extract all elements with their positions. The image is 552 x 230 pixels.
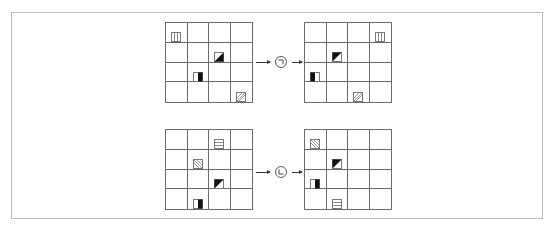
grid-cell-r1-c0 xyxy=(305,43,327,63)
grid-cell-r1-c1 xyxy=(327,43,349,63)
grid-cell-r1-c1 xyxy=(188,43,210,63)
grid-cell-r1-c2 xyxy=(209,150,231,170)
grid-cell-r0-c2 xyxy=(348,23,370,43)
output-grid-1 xyxy=(304,22,392,103)
grid-cell-r1-c2 xyxy=(348,150,370,170)
grid-cell-r3-c0 xyxy=(166,189,188,209)
grid-cell-r3-c3 xyxy=(370,82,392,102)
grid-cell-r1-c3 xyxy=(231,150,253,170)
triangle-top-left-dark-tile-icon xyxy=(332,47,342,57)
grid-cell-r3-c2 xyxy=(348,189,370,209)
grid-cell-r3-c0 xyxy=(305,82,327,102)
grid-cell-r0-c1 xyxy=(327,23,349,43)
output-grid-2 xyxy=(304,129,392,210)
grid-cell-r0-c0 xyxy=(305,23,327,43)
grid-cell-r3-c0 xyxy=(166,82,188,102)
grid-cell-r2-c0 xyxy=(166,170,188,190)
grid-cell-r0-c0 xyxy=(166,23,188,43)
grid-cell-r0-c3 xyxy=(231,130,253,150)
grid-cell-r1-c0 xyxy=(166,43,188,63)
grid-cell-r2-c3 xyxy=(231,170,253,190)
grid-cell-r3-c2 xyxy=(348,82,370,102)
grid-cell-r3-c3 xyxy=(231,189,253,209)
grid-cell-r3-c0 xyxy=(305,189,327,209)
vertical-stripes-tile-icon xyxy=(171,27,181,37)
half-left-dark-tile-icon xyxy=(310,67,320,77)
grid-cell-r3-c1 xyxy=(188,82,210,102)
grid-cell-r2-c1 xyxy=(188,63,210,83)
grid-cell-r1-c1 xyxy=(188,150,210,170)
horizontal-stripes-tile-icon xyxy=(214,134,224,144)
grid-cell-r1-c2 xyxy=(209,43,231,63)
rotate-clockwise-corner-icon xyxy=(275,56,287,68)
arrow-right-icon xyxy=(292,172,302,173)
grid-cell-r2-c0 xyxy=(305,170,327,190)
grid-cell-r0-c2 xyxy=(209,23,231,43)
operation-2 xyxy=(256,162,302,182)
grid-cell-r2-c3 xyxy=(370,170,392,190)
input-grid-2 xyxy=(165,129,253,210)
grid-cell-r1-c0 xyxy=(166,150,188,170)
grid-cell-r3-c2 xyxy=(209,189,231,209)
diagonal-stripes-reverse-tile-icon xyxy=(193,154,203,164)
grid-cell-r0-c0 xyxy=(166,130,188,150)
grid-cell-r2-c2 xyxy=(348,63,370,83)
grid-cell-r0-c3 xyxy=(370,23,392,43)
arrow-right-icon xyxy=(256,172,270,173)
half-right-dark-tile-icon xyxy=(193,67,203,77)
grid-cell-r1-c3 xyxy=(370,43,392,63)
grid-cell-r3-c3 xyxy=(370,189,392,209)
triangle-top-left-dark-tile-icon xyxy=(332,154,342,164)
grid-cell-r0-c1 xyxy=(188,130,210,150)
grid-cell-r1-c3 xyxy=(231,43,253,63)
diagonal-stripes-tile-icon xyxy=(353,87,363,97)
grid-cell-r1-c1 xyxy=(327,150,349,170)
vertical-stripes-tile-icon xyxy=(375,27,385,37)
diagram-frame xyxy=(11,12,543,219)
grid-cell-r3-c3 xyxy=(231,82,253,102)
grid-cell-r1-c0 xyxy=(305,150,327,170)
grid-cell-r1-c3 xyxy=(370,150,392,170)
grid-cell-r0-c1 xyxy=(188,23,210,43)
grid-cell-r2-c2 xyxy=(209,63,231,83)
grid-cell-r3-c1 xyxy=(188,189,210,209)
arrow-right-icon xyxy=(292,62,302,63)
grid-cell-r2-c1 xyxy=(327,63,349,83)
grid-cell-r3-c2 xyxy=(209,82,231,102)
grid-cell-r0-c2 xyxy=(209,130,231,150)
grid-cell-r2-c2 xyxy=(348,170,370,190)
grid-cell-r2-c0 xyxy=(166,63,188,83)
half-right-dark-tile-icon xyxy=(193,194,203,204)
grid-cell-r0-c0 xyxy=(305,130,327,150)
half-right-dark-tile-icon xyxy=(310,174,320,184)
grid-cell-r2-c0 xyxy=(305,63,327,83)
grid-cell-r3-c1 xyxy=(327,82,349,102)
grid-cell-r2-c3 xyxy=(231,63,253,83)
grid-cell-r0-c3 xyxy=(370,130,392,150)
grid-cell-r2-c1 xyxy=(327,170,349,190)
grid-cell-r1-c2 xyxy=(348,43,370,63)
diagonal-stripes-tile-icon xyxy=(236,87,246,97)
diagonal-stripes-reverse-tile-icon xyxy=(310,134,320,144)
rotate-corner-L-icon xyxy=(275,166,287,178)
grid-cell-r0-c3 xyxy=(231,23,253,43)
triangle-top-left-dark-tile-icon xyxy=(214,174,224,184)
horizontal-stripes-tile-icon xyxy=(332,194,342,204)
grid-cell-r0-c1 xyxy=(327,130,349,150)
grid-cell-r0-c2 xyxy=(348,130,370,150)
grid-cell-r2-c1 xyxy=(188,170,210,190)
grid-cell-r2-c3 xyxy=(370,63,392,83)
operation-1 xyxy=(256,52,302,72)
triangle-bottom-right-dark-tile-icon xyxy=(214,47,224,57)
input-grid-1 xyxy=(165,22,253,103)
grid-cell-r3-c1 xyxy=(327,189,349,209)
grid-cell-r2-c2 xyxy=(209,170,231,190)
arrow-right-icon xyxy=(256,62,270,63)
